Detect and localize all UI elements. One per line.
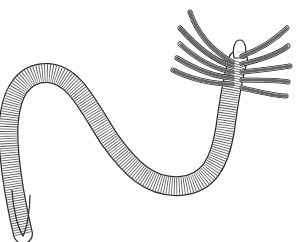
worm-body <box>8 60 238 234</box>
illustration-canvas <box>0 0 298 242</box>
tentacles-left <box>173 12 232 84</box>
worm-illustration <box>0 0 298 242</box>
tentacles-right <box>242 28 290 96</box>
